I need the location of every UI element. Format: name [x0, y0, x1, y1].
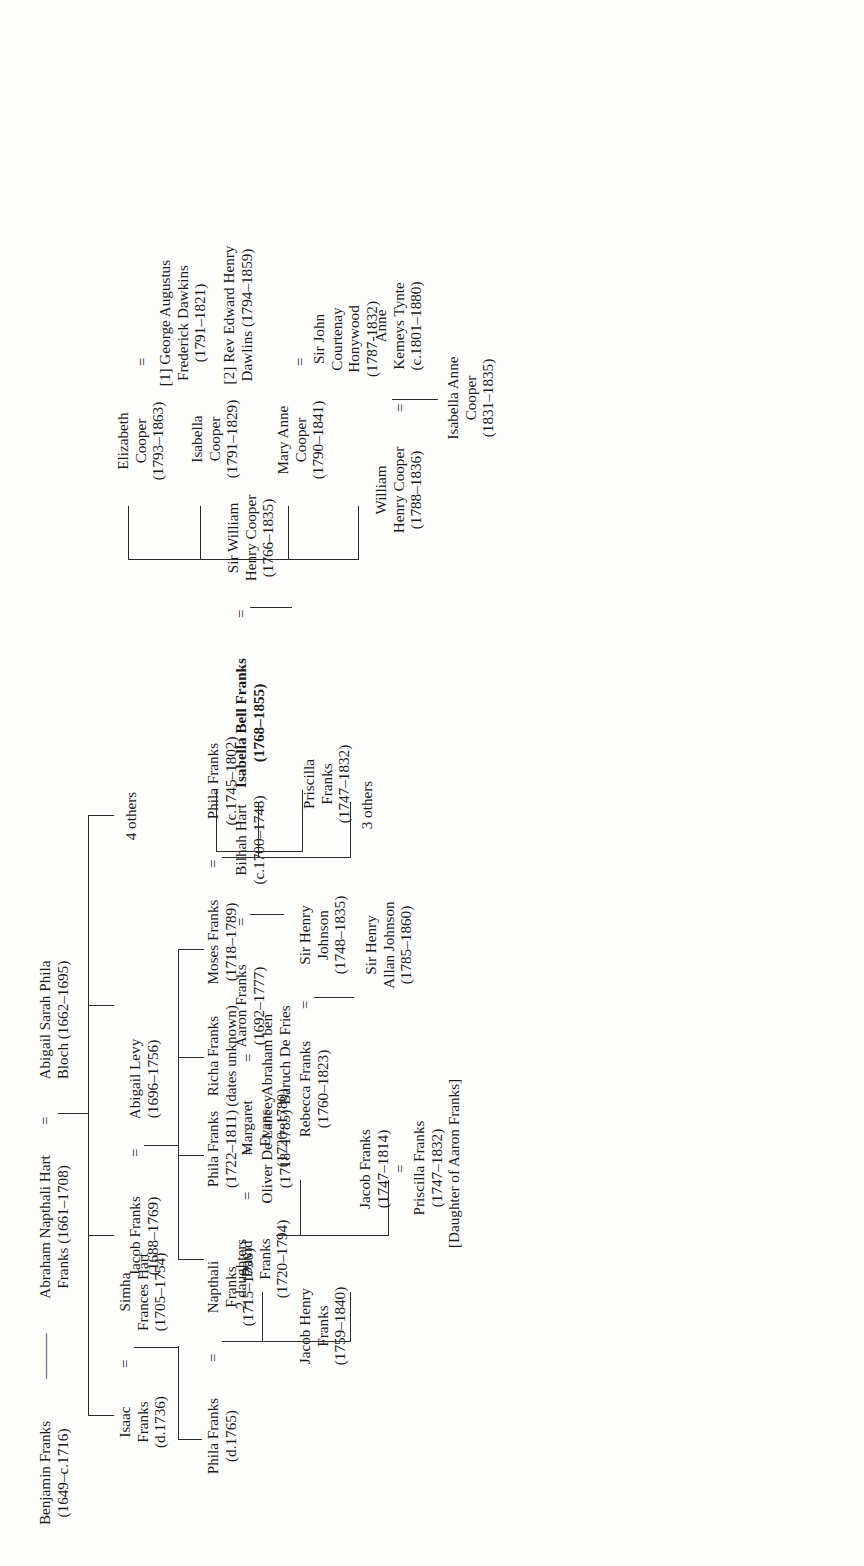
connector-aaron-sibling-spine	[216, 851, 302, 852]
person-dates: (1649–c.1716)	[54, 1398, 72, 1548]
node-isaac-franks: Isaac Franks (d.1736)	[116, 1374, 169, 1470]
connector-isaac-couple-drop	[134, 1347, 178, 1348]
node-rev-edward-henry-dawlins: [2] Rev Edward Henry Dawlins (1794–1859)	[220, 212, 255, 418]
person-name-line2: Henry Cooper	[242, 472, 260, 604]
person-dates: (c.1801–1880)	[407, 256, 425, 396]
node-sir-john-courtenay-honywood: Sir John Courtenay Honywood (1787-1832)	[310, 264, 381, 414]
connector-g1-drop	[58, 1113, 88, 1114]
marriage-symbol-maryanne: =	[292, 357, 307, 366]
connector-jacob-child-richa	[178, 1057, 204, 1058]
person-name-line2: Allan Johnson	[380, 872, 398, 1018]
node-priscilla-franks-spouse: Priscilla Franks (1747–1832) [Daughter o…	[410, 1088, 463, 1248]
marriage-symbol-isaac: =	[117, 1359, 132, 1368]
person-name-line2: Frederick Dawkins	[174, 228, 192, 418]
person-name: Isaac	[116, 1374, 134, 1470]
connector-jacob-child-moses	[178, 949, 204, 950]
person-name: Jacob Henry	[296, 1258, 314, 1394]
person-name: Sir Henry	[362, 872, 380, 1018]
descent-dash-root: ———	[36, 1328, 54, 1384]
node-sir-henry-allan-johnson: Sir Henry Allan Johnson (1785–1860)	[362, 872, 415, 1018]
person-name-line2: Franks	[134, 1374, 152, 1470]
connector-jacob-child-david	[178, 1259, 204, 1260]
person-name-line2: Baruch De Fries	[276, 986, 294, 1124]
person-name-line2: Henry Cooper	[390, 420, 408, 560]
person-name: [1] George Augustus	[156, 228, 174, 418]
connector-david-tick-rebecca	[300, 1180, 301, 1236]
person-name: Priscilla Franks	[410, 1088, 428, 1248]
person-name: William	[372, 420, 390, 560]
person-name-line2: Kemeys Tynte	[390, 256, 408, 396]
person-name: Sir John	[310, 264, 328, 414]
marriage-symbol-phila-napthali: =	[205, 1353, 220, 1362]
connector-isabella-couple-drop	[250, 607, 292, 608]
person-dates: (1831–1835)	[479, 328, 497, 468]
person-name: Moses Franks	[204, 872, 222, 1012]
connector-isaac-children-bar	[178, 1346, 179, 1440]
node-moses-franks: Moses Franks (1718–1789)	[204, 872, 239, 1012]
node-priscilla-franks-1747: Priscilla Franks (1747–1832)	[300, 728, 353, 840]
person-dates: (1747–1832)	[428, 1088, 446, 1248]
node-rebecca-franks: Rebecca Franks (1760–1823)	[296, 1014, 331, 1164]
person-name-line2: Cooper	[462, 328, 480, 468]
connector-jacob-child-phila	[178, 1155, 204, 1156]
person-name-line2: Franks	[314, 1258, 332, 1394]
node-abigail-levy: Abigail Levy (1696–1756)	[126, 1016, 161, 1142]
node-jacob-henry-franks: Jacob Henry Franks (1759–1840)	[296, 1258, 349, 1394]
person-dates: (1788–1836)	[407, 420, 425, 560]
person-note: [Daughter of Aaron Franks]	[445, 1088, 463, 1248]
person-dates: (1718–1789)	[222, 872, 240, 1012]
person-name-line2: Cooper	[132, 378, 150, 504]
person-name: Napthali	[204, 1228, 222, 1346]
node-3-others: 3 others	[358, 750, 376, 860]
person-name-line2: Dawlins (1794–1859)	[238, 212, 256, 418]
person-dates: (1785–1860)	[397, 872, 415, 1018]
person-name-line2: Franks	[318, 728, 336, 840]
node-4-others: 4 others	[122, 766, 140, 866]
connector-jacob-children-bar	[178, 950, 179, 1260]
node-jacob-franks: Jacob Franks (1688–1769)	[126, 1162, 161, 1310]
person-name: Jacob Franks	[126, 1162, 144, 1310]
connector-rebecca-couple-drop	[314, 997, 354, 998]
marriage-symbol-moses: =	[205, 859, 220, 868]
person-name: Margaret	[238, 1072, 256, 1184]
connector-g2-tick-jacob	[88, 1235, 114, 1236]
person-name-line2: Cooper	[292, 376, 310, 504]
marriage-symbol-elizabeth: =	[134, 357, 149, 366]
connector-g2-tick-isaac	[88, 1415, 114, 1416]
person-dates: (1787-1832)	[363, 264, 381, 414]
marriage-symbol-rebecca: =	[297, 1000, 312, 1009]
person-dates: (d.1736)	[151, 1374, 169, 1470]
connector-william-anne-drop	[392, 399, 438, 400]
connector-cooper-children-spine	[128, 559, 358, 560]
genealogy-chart-page: Benjamin Franks (1649–c.1716) ——— Abraha…	[0, 0, 864, 1566]
node-benjamin-franks: Benjamin Franks (1649–c.1716)	[36, 1398, 71, 1548]
connector-napthali-tick-top	[262, 1292, 263, 1342]
connector-cooper-tick-maryanne	[288, 506, 289, 560]
connector-david-couple-drop	[276, 1235, 302, 1236]
person-dates: (1768–1855)	[250, 624, 268, 822]
node-abraham-napthali-hart-franks: Abraham Napthali Hart Franks (1661–1708)	[36, 1134, 71, 1320]
marriage-symbol-david: =	[239, 1191, 254, 1200]
person-name: Elizabeth	[114, 378, 132, 504]
person-name: 2 daughters	[232, 1218, 250, 1330]
person-dates: (1760–1823)	[314, 1014, 332, 1164]
person-name: Sir Henry	[296, 876, 314, 994]
connector-jacob-couple-drop	[144, 1145, 178, 1146]
person-dates: (1759–1840)	[331, 1258, 349, 1394]
person-dates: (d.1765)	[222, 1366, 240, 1506]
connector-aaron-tick-phila	[216, 790, 217, 852]
genealogy-tree-canvas: Benjamin Franks (1649–c.1716) ——— Abraha…	[0, 0, 864, 1566]
person-name: Isabella Bell Franks	[232, 624, 250, 822]
connector-aaron-couple-drop	[250, 914, 284, 915]
connector-aaron-tick-priscilla	[302, 790, 303, 852]
person-name-line3: Honywood	[345, 264, 363, 414]
node-william-henry-cooper: William Henry Cooper (1788–1836)	[372, 420, 425, 560]
person-dates: (1747–1814)	[374, 1098, 392, 1240]
marriage-symbol-g1: =	[37, 1116, 52, 1125]
person-name: Abraham ben	[258, 986, 276, 1124]
person-dates: (1791–1821)	[191, 228, 209, 418]
person-name: Abigail Levy	[126, 1016, 144, 1142]
node-2-daughters: 2 daughters	[232, 1218, 250, 1330]
person-name: 4 others	[122, 766, 140, 866]
node-isabella-anne-cooper: Isabella Anne Cooper (1831–1835)	[444, 328, 497, 468]
